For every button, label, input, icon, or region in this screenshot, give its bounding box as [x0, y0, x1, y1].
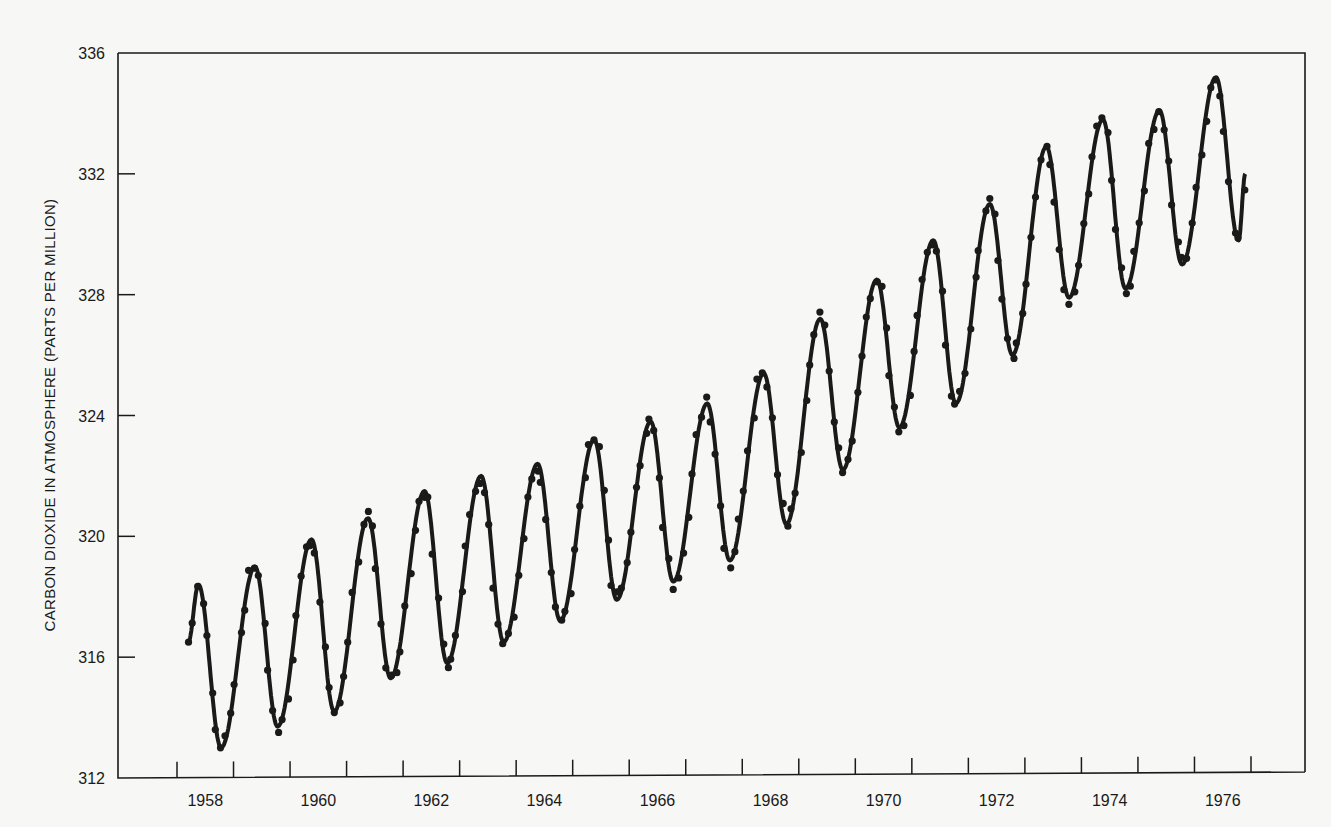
- data-point: [698, 414, 705, 421]
- data-point: [340, 673, 347, 680]
- data-point: [285, 695, 292, 702]
- data-point: [558, 617, 565, 624]
- data-point: [731, 548, 738, 555]
- data-point: [524, 493, 531, 500]
- data-point: [839, 469, 846, 476]
- data-point: [485, 521, 492, 528]
- data-point: [1060, 286, 1067, 293]
- data-point: [1225, 178, 1232, 185]
- data-point: [298, 573, 305, 580]
- data-point: [792, 490, 799, 497]
- data-point: [217, 744, 224, 751]
- data-point: [942, 342, 949, 349]
- data-point: [659, 524, 666, 531]
- data-point: [466, 511, 473, 518]
- data-point: [831, 418, 838, 425]
- data-point: [189, 620, 196, 627]
- x-tick-label: 1976: [1205, 792, 1241, 809]
- data-point: [447, 656, 454, 663]
- data-point: [645, 416, 652, 423]
- data-point: [939, 288, 946, 295]
- data-point: [1108, 177, 1115, 184]
- data-point: [1216, 92, 1223, 99]
- y-tick-label: 316: [78, 649, 105, 666]
- data-point: [1150, 126, 1157, 133]
- x-tick-label: 1964: [527, 792, 563, 809]
- data-point: [1141, 187, 1148, 194]
- data-point: [571, 546, 578, 553]
- data-point: [951, 401, 958, 408]
- data-point: [1050, 199, 1057, 206]
- data-point: [967, 325, 974, 332]
- data-point: [1118, 264, 1125, 271]
- y-tick-label: 328: [78, 287, 105, 304]
- data-point: [670, 586, 677, 593]
- y-tick-label: 336: [78, 45, 105, 62]
- y-tick-label: 320: [78, 528, 105, 545]
- data-point: [1168, 201, 1175, 208]
- data-point: [1198, 151, 1205, 158]
- data-point: [607, 582, 614, 589]
- data-point: [542, 516, 549, 523]
- data-point: [911, 348, 918, 355]
- data-point: [585, 441, 592, 448]
- data-point: [355, 558, 362, 565]
- data-point: [349, 589, 356, 596]
- data-point: [1155, 108, 1162, 115]
- data-point: [445, 664, 452, 671]
- x-tick-label: 1958: [187, 792, 223, 809]
- data-point: [650, 427, 657, 434]
- y-axis-title: CARBON DIOXIDE IN ATMOSPHERE (PARTS PER …: [41, 199, 58, 632]
- data-point: [900, 422, 907, 429]
- data-point: [369, 522, 376, 529]
- data-point: [1043, 143, 1050, 150]
- data-point: [401, 602, 408, 609]
- data-point: [393, 669, 400, 676]
- data-point: [1212, 76, 1219, 83]
- data-point: [727, 564, 734, 571]
- data-point: [914, 312, 921, 319]
- data-point: [316, 599, 323, 606]
- data-point: [863, 313, 870, 320]
- data-point: [693, 431, 700, 438]
- data-point: [885, 372, 892, 379]
- data-point: [576, 503, 583, 510]
- data-point: [633, 484, 640, 491]
- data-point: [867, 295, 874, 302]
- data-point: [1071, 288, 1078, 295]
- data-point: [1136, 219, 1143, 226]
- data-point: [1220, 128, 1227, 135]
- data-point: [895, 428, 902, 435]
- data-point: [907, 392, 914, 399]
- data-point: [372, 565, 379, 572]
- chart: 312316320324328332336 195819601962196419…: [0, 0, 1331, 827]
- data-point: [568, 590, 575, 597]
- data-point: [986, 195, 993, 202]
- data-point: [919, 276, 926, 283]
- data-point: [515, 572, 522, 579]
- data-point: [185, 639, 192, 646]
- data-point: [849, 437, 856, 444]
- fitted-curve-line: [188, 77, 1245, 748]
- x-tick-label: 1966: [640, 792, 676, 809]
- data-point: [472, 488, 479, 495]
- data-point: [753, 376, 760, 383]
- data-point: [891, 403, 898, 410]
- data-point: [382, 664, 389, 671]
- data-point: [1207, 84, 1214, 91]
- data-point: [994, 257, 1001, 264]
- data-point: [1088, 153, 1095, 160]
- data-point: [269, 707, 276, 714]
- data-point: [212, 726, 219, 733]
- data-point: [396, 648, 403, 655]
- data-point: [1241, 186, 1248, 193]
- data-point: [337, 699, 344, 706]
- data-point: [1046, 161, 1053, 168]
- data-point: [1123, 290, 1130, 297]
- data-point: [1189, 219, 1196, 226]
- y-axis-ticks: 312316320324328332336: [78, 45, 135, 787]
- data-point: [624, 559, 631, 566]
- data-point: [1098, 114, 1105, 121]
- data-point: [1112, 226, 1119, 233]
- data-point: [948, 393, 955, 400]
